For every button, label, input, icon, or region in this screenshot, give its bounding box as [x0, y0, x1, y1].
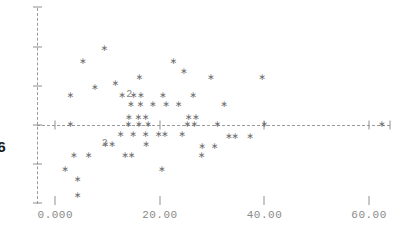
- x-axis-tick-label: 60.00: [351, 210, 387, 221]
- x-axis-label-layer: 0.00020.0040.0060.00: [0, 0, 410, 237]
- x-axis-tick-label: 0.000: [38, 210, 74, 221]
- x-axis-tick-label: 20.00: [142, 210, 178, 221]
- scatter-plot: 6 ∗∗∗∗∗∗∗∗∗∗∗∗∗∗∗∗∗∗∗∗∗∗∗∗∗∗∗∗∗∗∗∗∗∗∗∗∗∗…: [0, 0, 410, 237]
- x-axis-tick-label: 40.00: [247, 210, 283, 221]
